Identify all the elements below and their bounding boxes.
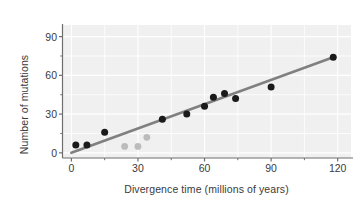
data-point bbox=[330, 54, 337, 61]
x-tick-label: 90 bbox=[256, 162, 286, 174]
x-tick-label: 120 bbox=[323, 162, 353, 174]
data-point bbox=[121, 143, 128, 150]
x-tick-label: 0 bbox=[56, 162, 86, 174]
scatter-plot-figure: 0306090 0306090120 Number of mutations D… bbox=[0, 0, 363, 209]
data-point bbox=[72, 142, 79, 149]
data-point bbox=[221, 90, 228, 97]
data-point bbox=[83, 142, 90, 149]
data-point bbox=[135, 143, 142, 150]
x-axis-title: Divergence time (millions of years) bbox=[62, 183, 351, 195]
data-point bbox=[268, 83, 275, 90]
y-axis-title: Number of mutations bbox=[11, 0, 37, 209]
data-point bbox=[143, 134, 150, 141]
data-point bbox=[210, 94, 217, 101]
data-point bbox=[101, 129, 108, 136]
data-point bbox=[201, 103, 208, 110]
x-tick-label: 30 bbox=[123, 162, 153, 174]
plot-background-group bbox=[63, 25, 352, 158]
data-point bbox=[159, 116, 166, 123]
x-tick-label: 60 bbox=[190, 162, 220, 174]
data-point bbox=[183, 111, 190, 118]
plot-area-background bbox=[63, 25, 352, 158]
data-point bbox=[232, 95, 239, 102]
